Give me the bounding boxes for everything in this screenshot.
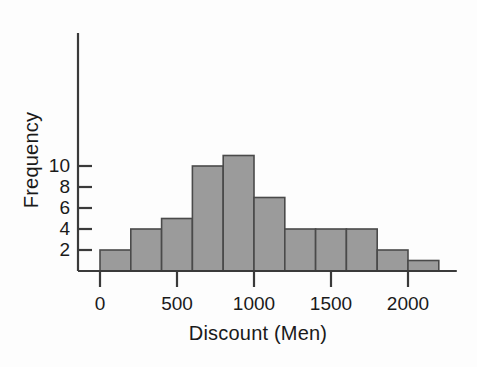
bars-group	[100, 156, 439, 272]
plot-area: 2468100500100015002000	[0, 0, 477, 367]
x-axis-tick-label: 1500	[291, 293, 371, 315]
histogram-bar	[254, 198, 285, 272]
x-axis-tick-label: 2000	[368, 293, 448, 315]
histogram-bar	[285, 229, 316, 271]
histogram-bar	[192, 166, 223, 271]
histogram-bar	[346, 229, 377, 271]
x-axis-tick-label: 1000	[214, 293, 294, 315]
histogram-bar	[408, 261, 439, 272]
histogram-figure: Frequency Discount (Men) 246810050010001…	[0, 0, 477, 367]
y-axis-tick-label: 10	[30, 155, 70, 177]
histogram-bar	[131, 229, 162, 271]
y-axis-tick-label: 4	[30, 218, 70, 240]
histogram-bar	[162, 219, 193, 272]
x-axis-tick-label: 0	[60, 293, 140, 315]
x-axis-tick-label: 500	[137, 293, 217, 315]
histogram-bar	[100, 250, 131, 271]
histogram-bar	[377, 250, 408, 271]
y-axis-tick-label: 8	[30, 176, 70, 198]
histogram-bar	[223, 156, 254, 272]
y-axis-tick-label: 2	[30, 239, 70, 261]
histogram-bar	[316, 229, 347, 271]
y-axis-tick-label: 6	[30, 197, 70, 219]
